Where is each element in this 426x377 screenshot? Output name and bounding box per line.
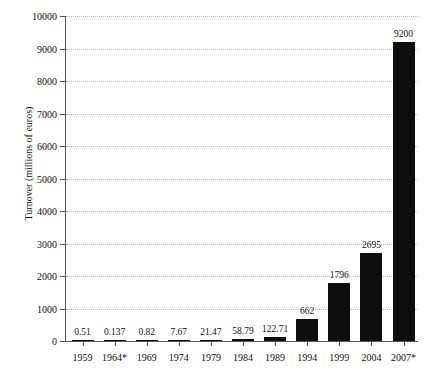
gridline: [66, 146, 418, 147]
gridline: [66, 114, 418, 115]
y-axis-tick-label: 2000: [37, 271, 57, 282]
x-axis-tick-label: 1979: [201, 352, 221, 363]
y-axis-tick: [60, 276, 65, 277]
x-axis-tick-label: 1994: [297, 352, 317, 363]
y-axis-tick: [60, 81, 65, 82]
x-axis-tick: [339, 341, 340, 346]
bar-value-label: 0.82: [138, 327, 155, 337]
y-axis-tick: [60, 49, 65, 50]
bar: [136, 340, 158, 341]
bar-value-label: 9200: [394, 29, 413, 39]
y-axis-tick: [60, 114, 65, 115]
bar: [296, 319, 318, 341]
bar-value-label: 2695: [362, 240, 381, 250]
y-axis-tick-label: 7000: [37, 108, 57, 119]
gridline: [66, 211, 418, 212]
bar: [168, 340, 190, 341]
x-axis-tick: [83, 341, 84, 346]
gridline: [66, 81, 418, 82]
y-axis-title: Turnover (millions of euros): [23, 74, 34, 254]
bar-value-label: 7.67: [170, 327, 187, 337]
y-axis-tick: [60, 146, 65, 147]
bar: [104, 340, 126, 341]
x-axis-tick: [211, 341, 212, 346]
y-axis-tick: [60, 179, 65, 180]
bar-value-label: 58.79: [232, 326, 253, 336]
x-axis-tick-label: 2004: [361, 352, 381, 363]
bar: [393, 42, 415, 341]
x-axis-tick-label: 1974: [169, 352, 189, 363]
bar: [328, 283, 350, 341]
x-axis-tick: [404, 341, 405, 346]
gridline: [66, 179, 418, 180]
gridline: [66, 49, 418, 50]
y-axis-tick-label: 8000: [37, 76, 57, 87]
bar: [232, 339, 254, 341]
y-axis-tick: [60, 211, 65, 212]
x-axis-tick-label: 1959: [73, 352, 93, 363]
y-axis-tick-label: 3000: [37, 238, 57, 249]
bar-value-label: 0.137: [104, 327, 125, 337]
bar: [264, 337, 286, 341]
x-axis-tick: [243, 341, 244, 346]
x-axis-tick: [179, 341, 180, 346]
y-axis-tick-label: 5000: [37, 173, 57, 184]
bar-value-label: 122.71: [262, 324, 288, 334]
plot-area: 0100020003000400050006000700080009000100…: [65, 16, 418, 341]
x-axis-line: [65, 341, 418, 342]
x-axis-tick: [115, 341, 116, 346]
y-axis-tick-label: 1000: [37, 303, 57, 314]
x-axis-tick-label: 1999: [329, 352, 349, 363]
gridline: [66, 16, 418, 17]
x-axis-tick: [147, 341, 148, 346]
y-axis-tick-label: 4000: [37, 206, 57, 217]
bar: [72, 340, 94, 341]
x-axis-tick: [275, 341, 276, 346]
y-axis-tick: [60, 244, 65, 245]
y-axis-tick-label: 9000: [37, 43, 57, 54]
x-axis-tick: [371, 341, 372, 346]
bar-value-label: 1796: [330, 270, 349, 280]
bar: [200, 340, 222, 341]
y-axis-tick-label: 6000: [37, 141, 57, 152]
x-axis-tick-label: 1964*: [102, 352, 127, 363]
bar-value-label: 0.51: [74, 327, 91, 337]
x-axis-tick-label: 1969: [137, 352, 157, 363]
y-axis-tick-label: 0: [52, 336, 57, 347]
bar-value-label: 662: [300, 306, 314, 316]
y-axis-tick: [60, 309, 65, 310]
x-axis-tick-label: 2007*: [391, 352, 416, 363]
x-axis-tick-label: 1984: [233, 352, 253, 363]
y-axis-tick: [60, 341, 65, 342]
y-axis-tick: [60, 16, 65, 17]
bar-chart: Turnover (millions of euros) 01000200030…: [0, 0, 426, 377]
y-axis-tick-label: 10000: [32, 11, 57, 22]
bar-value-label: 21.47: [200, 327, 221, 337]
x-axis-tick-label: 1989: [265, 352, 285, 363]
x-axis-tick: [307, 341, 308, 346]
bar: [360, 253, 382, 341]
